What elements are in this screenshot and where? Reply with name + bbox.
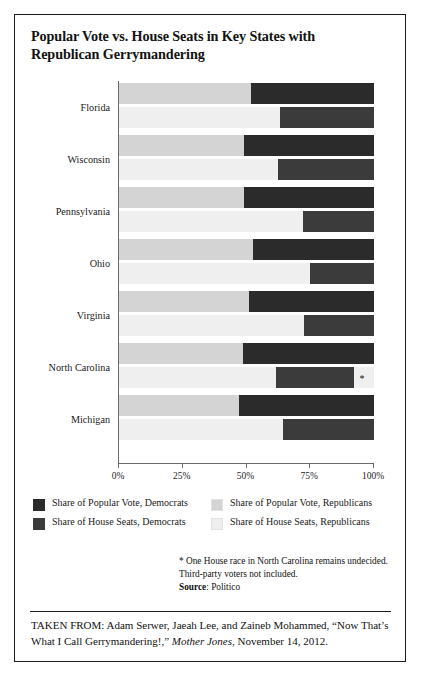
attribution-date: November 14, 2012.: [238, 635, 328, 647]
x-tick-label: 25%: [173, 471, 190, 481]
house-seats-democrats-segment: [280, 107, 374, 128]
x-tick-label: 100%: [362, 471, 384, 481]
house-seats-bar[interactable]: [119, 159, 374, 180]
state-label: Michigan: [71, 414, 110, 425]
x-tick-mark: [118, 463, 119, 468]
house-seats-republicans-segment: [119, 367, 276, 388]
popular-vote-bar[interactable]: [119, 395, 374, 416]
house-seats-republicans-segment: [119, 107, 280, 128]
popular-vote-democrats-segment: [243, 343, 374, 364]
house-seats-democrats-segment: [303, 211, 374, 232]
footnote-source: Source: Politico: [179, 581, 409, 594]
state-label: Virginia: [77, 310, 110, 321]
x-tick-mark: [246, 463, 247, 468]
popular-vote-democrats-segment: [239, 395, 374, 416]
undecided-race-asterisk: *: [360, 374, 365, 384]
house-seats-democrats-segment: [304, 315, 374, 336]
house-seats-republicans-segment: [119, 211, 303, 232]
source-label: Source: [179, 582, 206, 592]
house-seats-democrats-segment: [276, 367, 355, 388]
state-label: Wisconsin: [67, 154, 110, 165]
bar-group: Florida: [15, 83, 407, 128]
popular-vote-republicans-segment: [119, 135, 244, 156]
popular-vote-republicans-segment: [119, 395, 239, 416]
house-seats-bar[interactable]: [119, 315, 374, 336]
popular-vote-democrats-segment: [253, 239, 374, 260]
popular-vote-democrats-segment: [244, 135, 374, 156]
bar-group: Wisconsin: [15, 135, 407, 180]
popular-vote-democrats-segment: [244, 187, 374, 208]
chart-plot-area: 0%25%50%75%100% FloridaWisconsinPennsylv…: [15, 81, 407, 481]
popular-vote-republicans-segment: [119, 343, 243, 364]
x-tick-label: 75%: [301, 471, 318, 481]
state-label: Florida: [81, 102, 110, 113]
popular-vote-bar[interactable]: [119, 135, 374, 156]
popular-vote-bar[interactable]: [119, 83, 374, 104]
state-label: Pennsylvania: [56, 206, 110, 217]
x-tick-mark: [309, 463, 310, 468]
legend-label: Share of Popular Vote, Democrats: [52, 497, 188, 508]
popular-vote-democrats-segment: [251, 83, 374, 104]
legend-label: Share of Popular Vote, Republicans: [230, 497, 372, 508]
legend-label: Share of House Seats, Republicans: [230, 516, 370, 527]
house-seats-republicans-segment: [119, 159, 278, 180]
footnotes: * One House race in North Carolina remai…: [179, 555, 409, 595]
popular-vote-democrats-segment: [249, 291, 374, 312]
figure-frame: Popular Vote vs. House Seats in Key Stat…: [14, 14, 406, 662]
attribution-publication: Mother Jones: [172, 635, 232, 647]
bar-group: Virginia: [15, 291, 407, 336]
legend-swatch-icon: [211, 499, 223, 511]
popular-vote-bar[interactable]: [119, 291, 374, 312]
bar-group: Michigan: [15, 395, 407, 440]
house-seats-republicans-segment: [119, 263, 310, 284]
page-title: Popular Vote vs. House Seats in Key Stat…: [31, 27, 371, 64]
bar-group: North Carolina: [15, 343, 407, 388]
house-seats-bar[interactable]: [119, 107, 374, 128]
attribution-comma: ,: [232, 635, 235, 647]
legend-swatch-icon: [33, 499, 45, 511]
popular-vote-bar[interactable]: [119, 239, 374, 260]
bar-group: Ohio: [15, 239, 407, 284]
popular-vote-bar[interactable]: [119, 187, 374, 208]
popular-vote-republicans-segment: [119, 187, 244, 208]
footnote-thirdparty: Third-party voters not included.: [179, 568, 409, 581]
state-label: Ohio: [90, 258, 110, 269]
footnote-asterisk: * One House race in North Carolina remai…: [179, 555, 409, 568]
x-tick-mark: [182, 463, 183, 468]
legend-swatch-icon: [33, 518, 45, 530]
legend-label: Share of House Seats, Democrats: [52, 516, 186, 527]
divider: [30, 611, 391, 612]
state-label: North Carolina: [49, 362, 110, 373]
popular-vote-bar[interactable]: [119, 343, 374, 364]
attribution-block: TAKEN FROM: Adam Serwer, Jaeah Lee, and …: [31, 618, 395, 650]
chart-legend: Share of Popular Vote, DemocratsShare of…: [15, 497, 407, 545]
source-value: Politico: [211, 582, 240, 592]
house-seats-bar[interactable]: [119, 263, 374, 284]
house-seats-republicans-segment: [119, 315, 304, 336]
house-seats-bar[interactable]: [119, 211, 374, 232]
popular-vote-republicans-segment: [119, 291, 249, 312]
house-seats-bar[interactable]: [119, 367, 374, 388]
attribution-prefix: TAKEN FROM: Adam Serwer, Jaeah Lee, and …: [31, 619, 329, 631]
x-tick-mark: [373, 463, 374, 468]
house-seats-bar[interactable]: [119, 419, 374, 440]
house-seats-democrats-segment: [283, 419, 374, 440]
popular-vote-republicans-segment: [119, 83, 251, 104]
legend-swatch-icon: [211, 518, 223, 530]
house-seats-democrats-segment: [278, 159, 374, 180]
bar-group: Pennsylvania: [15, 187, 407, 232]
popular-vote-republicans-segment: [119, 239, 253, 260]
x-tick-label: 50%: [237, 471, 254, 481]
x-tick-label: 0%: [112, 471, 125, 481]
house-seats-republicans-segment: [119, 419, 283, 440]
house-seats-democrats-segment: [310, 263, 374, 284]
